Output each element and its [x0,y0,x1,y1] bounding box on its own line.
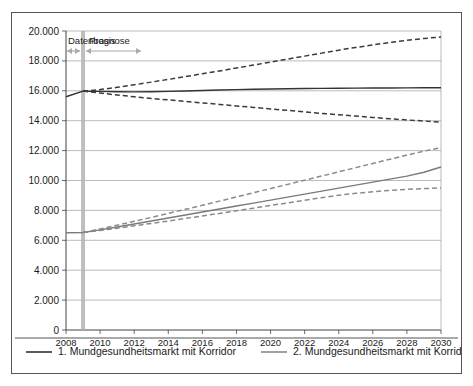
ytick-label: 12.000 [28,145,59,156]
chart-figure: 02.0004.0006.0008.00010.00012.00014.0001… [11,12,462,374]
xtick-label: 2020 [260,337,281,348]
ytick-label: 0 [53,325,59,336]
series-line [83,91,441,122]
ytick-label: 2.000 [34,295,59,306]
ytick-label: 16.000 [28,85,59,96]
ytick-label: 14.000 [28,115,59,126]
ytick-label: 20.000 [28,26,59,37]
region-arrow-head-right-prognose [136,48,141,54]
series-line [66,167,441,233]
divider-band [81,31,85,330]
region-arrow-head-right-datenbasis [75,48,80,54]
chart-canvas: 02.0004.0006.0008.00010.00012.00014.0001… [12,13,461,373]
series-line [66,88,441,97]
ytick-label: 6.000 [34,235,59,246]
ytick-label: 8.000 [34,205,59,216]
ytick-label: 18.000 [28,55,59,66]
region-arrow-head-left-datenbasis [67,48,72,54]
region-arrow-head-left-prognose [86,48,91,54]
series-line [83,37,441,91]
ytick-label: 4.000 [34,265,59,276]
region-label-prognose: Prognose [89,35,130,46]
legend-label: 1. Mundgesundheitsmarkt mit Korridor [58,345,236,357]
ytick-label: 10.000 [28,175,59,186]
legend-label: 2. Mundgesundheitsmarkt mit Korridor [293,345,461,357]
